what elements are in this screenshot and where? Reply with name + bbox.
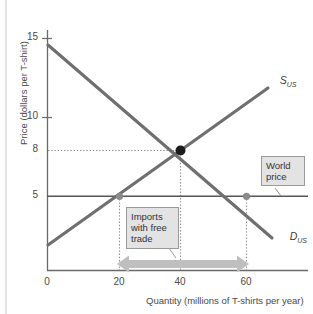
imports-callout: Imports with free trade <box>126 207 179 249</box>
x-axis-title: Quantity (millions of T-shirts per year) <box>146 296 304 306</box>
marker-equilibrium <box>176 146 186 156</box>
demand-curve-label: DUS <box>278 220 307 255</box>
ytick-label-8: 8 <box>8 144 38 155</box>
marker-quantity-60 <box>243 193 250 200</box>
xtick-label-40: 40 <box>168 277 192 288</box>
marker-quantity-20 <box>116 193 123 200</box>
ytick-label-5: 5 <box>8 190 38 201</box>
supply-demand-chart: Price (dollars per T-shirt) Quantity (mi… <box>0 0 313 314</box>
xtick-label-0: 0 <box>35 277 59 288</box>
supply-curve-label: SUS <box>268 64 296 99</box>
imports-callout-line2: with free <box>131 222 174 233</box>
world-price-leader-line <box>275 188 281 196</box>
y-axis-title: Price (dollars per T-shirt) <box>19 23 29 163</box>
ytick-label-10: 10 <box>8 111 38 122</box>
world-price-callout-line2: price <box>266 171 300 182</box>
demand-curve-label-sub: US <box>297 237 307 244</box>
supply-curve-label-base: S <box>280 74 287 86</box>
xtick-label-60: 60 <box>234 277 258 288</box>
imports-callout-line1: Imports <box>131 211 174 222</box>
world-price-callout-line1: World <box>266 160 300 171</box>
supply-curve-label-sub: US <box>287 81 297 88</box>
world-price-callout: World price <box>261 156 305 186</box>
imports-callout-line3: trade <box>131 233 174 244</box>
ytick-label-15: 15 <box>8 32 38 43</box>
xtick-label-20: 20 <box>107 277 131 288</box>
